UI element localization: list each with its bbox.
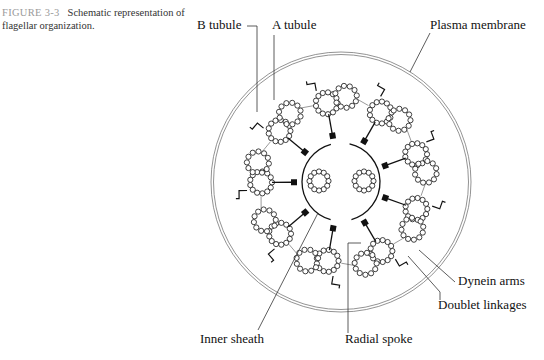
protofilament (364, 250, 369, 255)
protofilament (357, 270, 362, 275)
protofilament (390, 126, 395, 131)
spoke-head (360, 137, 368, 145)
protofilament (252, 214, 257, 219)
protofilament (391, 108, 396, 113)
protofilament (265, 155, 270, 160)
protofilament (402, 108, 407, 113)
protofilament (259, 228, 264, 233)
protofilament (279, 242, 284, 247)
protofilament (352, 260, 357, 265)
protofilament (264, 166, 269, 171)
protofilament (265, 189, 270, 194)
protofilament (418, 219, 423, 224)
protofilament (325, 90, 330, 95)
protofilament (344, 105, 349, 110)
protofilament (413, 166, 418, 171)
spoke-head (330, 225, 337, 232)
leader-lines (247, 26, 455, 333)
protofilament (390, 248, 395, 253)
protofilament (250, 170, 255, 175)
protofilament (294, 261, 299, 266)
protofilament (325, 174, 330, 179)
protofilament (298, 114, 303, 119)
doublet-4 (399, 183, 446, 243)
leader-dynein-arms (419, 250, 455, 282)
leader-b-tubule (247, 26, 257, 112)
protofilament (326, 247, 331, 252)
a-tubule (267, 220, 294, 247)
protofilament (246, 154, 251, 159)
doublet-linkage (406, 128, 411, 141)
protofilament (284, 101, 289, 106)
protofilament (407, 112, 412, 117)
protofilament (397, 106, 402, 111)
protofilament (279, 220, 284, 225)
protofilament (403, 209, 408, 214)
protofilament (321, 248, 326, 253)
protofilament (333, 91, 338, 96)
protofilament (261, 207, 266, 212)
protofilament (326, 269, 331, 274)
protofilament (410, 196, 415, 201)
protofilament (402, 127, 407, 132)
protofilament (303, 269, 308, 274)
protofilament (266, 131, 271, 136)
protofilament (325, 112, 330, 117)
protofilament (248, 182, 253, 187)
dynein-arm (268, 249, 274, 262)
protofilament (405, 236, 410, 241)
dynein-arm (236, 191, 247, 199)
protofilament (368, 271, 373, 276)
protofilament (380, 238, 385, 243)
doublet-3 (403, 128, 439, 185)
doublet-linkage (393, 237, 405, 244)
protofilament (409, 215, 414, 220)
protofilament (313, 250, 318, 255)
protofilament (290, 100, 295, 105)
protofilament (385, 258, 390, 263)
central-tubule-2 (352, 169, 376, 193)
protofilament (350, 103, 355, 108)
central-pair (307, 169, 376, 193)
protofilament (359, 251, 364, 256)
protofilament (400, 221, 405, 226)
radial-spoke (329, 228, 333, 250)
dynein-arm (378, 83, 385, 97)
protofilament (271, 212, 276, 217)
protofilament (389, 243, 394, 248)
b-tubule (352, 250, 379, 277)
protofilament (431, 177, 436, 182)
leader-plasma-membrane (410, 33, 430, 72)
protofilament (426, 180, 431, 185)
protofilament (295, 119, 300, 124)
protofilament (374, 100, 379, 105)
protofilament (374, 261, 379, 266)
protofilament (354, 93, 359, 98)
microtubule-doublets (236, 81, 446, 288)
dynein-arm (395, 259, 408, 266)
protofilament (354, 255, 359, 260)
radial-spoke (329, 114, 333, 136)
protofilament (272, 223, 277, 228)
radial-spoke (365, 223, 376, 242)
a-tubule (266, 117, 293, 144)
protofilament (363, 272, 368, 277)
protofilament (288, 128, 293, 133)
spoke-head (329, 132, 336, 139)
protofilament (370, 174, 375, 179)
leader-doublet-linkages (408, 256, 440, 300)
protofilament (331, 267, 336, 272)
protofilament (353, 266, 358, 271)
protofilament (416, 161, 421, 166)
protofilament (278, 139, 283, 144)
b-tubule (413, 158, 440, 185)
protofilament (415, 177, 420, 182)
protofilament (336, 86, 341, 91)
radial-spoke (385, 198, 406, 205)
inner-sheath (302, 144, 380, 220)
protofilament (256, 209, 261, 214)
a-tubule (368, 238, 395, 265)
protofilament (434, 171, 439, 176)
protofilament (379, 99, 384, 104)
doublet-2 (356, 83, 413, 134)
